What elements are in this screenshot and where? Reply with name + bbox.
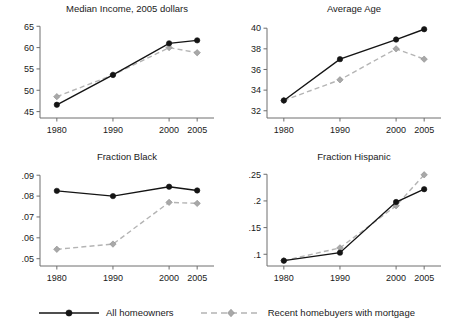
- chart-grid: Median Income, 2005 dollars4550556065198…: [0, 0, 453, 295]
- data-point-marker: [194, 200, 200, 206]
- series-line-recent-homebuyers: [284, 49, 424, 101]
- panel-median-income: Median Income, 2005 dollars4550556065198…: [0, 0, 226, 148]
- plot-bottom-right: Fraction Hispanic.1.15.2.251980199020002…: [227, 148, 453, 296]
- x-tick-label: 1980: [47, 273, 67, 283]
- series-line-all-homeowners: [57, 40, 197, 104]
- legend-label-recent-homebuyers: Recent homebuyers with mortgage: [268, 307, 415, 318]
- data-point-marker: [337, 77, 343, 83]
- data-point-marker: [110, 193, 115, 198]
- figure-legend: All homeowners Recent homebuyers with mo…: [0, 296, 453, 329]
- data-point-marker: [393, 199, 398, 204]
- data-point-marker: [54, 102, 59, 107]
- y-tick-label: .25: [248, 170, 261, 180]
- y-tick-label: .06: [21, 233, 34, 243]
- x-tick-label: 1990: [103, 273, 123, 283]
- data-point-marker: [421, 27, 426, 32]
- panel-title: Fraction Black: [97, 151, 157, 162]
- y-tick-label: .08: [21, 191, 34, 201]
- data-point-marker: [166, 184, 171, 189]
- panel-fraction-black: Fraction Black.05.06.07.08.0919801990200…: [0, 148, 226, 296]
- panel-title: Average Age: [327, 3, 381, 14]
- data-point-marker: [194, 188, 199, 193]
- data-point-marker: [194, 50, 200, 56]
- y-tick-label: 36: [251, 65, 261, 75]
- x-tick-label: 2005: [414, 273, 434, 283]
- legend-swatch-solid-icon: [38, 306, 100, 320]
- y-tick-label: 34: [251, 85, 261, 95]
- x-tick-label: 2005: [187, 125, 207, 135]
- series-line-recent-homebuyers: [57, 202, 197, 249]
- legend-swatch-dashed-icon: [200, 306, 262, 320]
- panel-average-age: Average Age32343638401980199020002005: [227, 0, 453, 148]
- y-tick-label: .05: [21, 254, 34, 264]
- series-line-all-homeowners: [57, 187, 197, 196]
- panel-fraction-hispanic: Fraction Hispanic.1.15.2.251980199020002…: [227, 148, 453, 296]
- data-point-marker: [281, 98, 286, 103]
- y-tick-label: .07: [21, 212, 34, 222]
- y-tick-label: 40: [251, 23, 261, 33]
- y-tick-label: .2: [253, 196, 261, 206]
- plot-bottom-left: Fraction Black.05.06.07.08.0919801990200…: [0, 148, 226, 296]
- y-tick-label: 38: [251, 44, 261, 54]
- plot-top-left: Median Income, 2005 dollars4550556065198…: [0, 0, 226, 148]
- x-tick-label: 1980: [274, 125, 294, 135]
- x-tick-label: 2000: [386, 125, 406, 135]
- x-tick-label: 1990: [103, 125, 123, 135]
- data-point-marker: [54, 246, 60, 252]
- x-tick-label: 1980: [274, 273, 294, 283]
- x-tick-label: 2005: [187, 273, 207, 283]
- plot-top-right: Average Age32343638401980199020002005: [227, 0, 453, 148]
- series-line-recent-homebuyers: [284, 175, 424, 261]
- y-tick-label: 60: [24, 43, 34, 53]
- data-point-marker: [110, 72, 115, 77]
- data-point-marker: [54, 93, 60, 99]
- x-tick-label: 2000: [159, 125, 179, 135]
- y-tick-label: .15: [248, 223, 261, 233]
- data-point-marker: [194, 38, 199, 43]
- series-line-recent-homebuyers: [57, 48, 197, 97]
- legend-item-recent-homebuyers: Recent homebuyers with mortgage: [200, 306, 415, 320]
- data-point-marker: [166, 41, 171, 46]
- data-point-marker: [281, 258, 286, 263]
- legend-label-all-homeowners: All homeowners: [106, 307, 174, 318]
- y-tick-label: .09: [21, 171, 34, 181]
- data-point-marker: [337, 56, 342, 61]
- panel-title: Median Income, 2005 dollars: [66, 3, 188, 14]
- y-tick-label: 45: [24, 107, 34, 117]
- x-tick-label: 1990: [330, 125, 350, 135]
- panel-title: Fraction Hispanic: [317, 151, 391, 162]
- x-tick-label: 2005: [414, 125, 434, 135]
- data-point-marker: [393, 46, 399, 52]
- x-tick-label: 2000: [386, 273, 406, 283]
- data-point-marker: [393, 37, 398, 42]
- y-tick-label: 50: [24, 86, 34, 96]
- x-tick-label: 2000: [159, 273, 179, 283]
- y-tick-label: 65: [24, 22, 34, 32]
- y-tick-label: 32: [251, 106, 261, 116]
- data-point-marker: [54, 188, 59, 193]
- series-line-all-homeowners: [284, 189, 424, 260]
- y-tick-label: 55: [24, 64, 34, 74]
- x-tick-label: 1980: [47, 125, 67, 135]
- y-tick-label: .1: [253, 250, 261, 260]
- data-point-marker: [421, 56, 427, 62]
- series-line-all-homeowners: [284, 29, 424, 100]
- x-tick-label: 1990: [330, 273, 350, 283]
- legend-item-all-homeowners: All homeowners: [38, 306, 174, 320]
- data-point-marker: [421, 187, 426, 192]
- data-point-marker: [337, 250, 342, 255]
